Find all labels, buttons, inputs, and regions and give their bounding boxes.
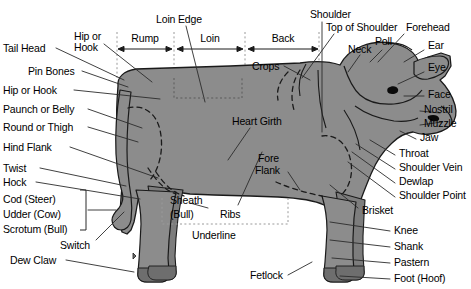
brace-shape: [80, 190, 86, 230]
label-top-of-shoulder: Top of Shoulder: [326, 22, 397, 34]
label-fore-flank-line2: Flank: [255, 165, 280, 177]
label-face: Face: [428, 89, 451, 101]
loin-arrow-head-left: [177, 46, 183, 51]
loin-arrow-head-right: [237, 46, 243, 51]
label-switch: Switch: [60, 240, 90, 252]
label-loin-edge: Loin Edge: [156, 14, 202, 26]
label-ear: Ear: [428, 40, 444, 52]
label-eye: Eye: [428, 62, 446, 74]
label-muzzle: Muzzle: [424, 118, 456, 130]
cow-far-front-hoof: [336, 266, 364, 280]
leader-twist: [40, 168, 126, 186]
label-crops: Crops: [252, 61, 279, 73]
measurement-arrows: [118, 46, 318, 51]
label-udder-cow: Udder (Cow): [3, 209, 61, 221]
label-ribs: Ribs: [220, 209, 240, 221]
label-pastern: Pastern: [394, 257, 429, 269]
label-hind-flank: Hind Flank: [3, 142, 52, 154]
label-hock: Hock: [3, 177, 26, 189]
back-arrow-head-right: [312, 46, 318, 51]
label-jaw: Jaw: [420, 132, 438, 144]
rump-arrow-head-right: [166, 46, 172, 51]
label-fetlock: Fetlock: [250, 270, 283, 282]
label-knee: Knee: [394, 225, 418, 237]
label-hip-or-hook-top-line2: Hook: [74, 42, 98, 54]
label-shoulder-vein: Shoulder Vein: [399, 162, 462, 174]
label-cod-steer: Cod (Steer): [3, 194, 56, 206]
label-foot-hoof: Foot (Hoof): [394, 273, 445, 285]
measurement-label-loin: Loin: [177, 33, 243, 45]
label-sheath-bull-line1: Sheath: [170, 195, 202, 207]
label-hip-or-hook-left: Hip or Hook: [3, 85, 57, 97]
label-throat: Throat: [399, 148, 428, 160]
label-poll: Poll: [375, 36, 392, 48]
label-shoulder-point: Shoulder Point: [399, 190, 466, 202]
label-pin-bones: Pin Bones: [28, 66, 75, 78]
cow-far-hind-hoof: [148, 266, 176, 280]
label-twist: Twist: [3, 163, 26, 175]
label-heart-girth: Heart Girth: [232, 116, 282, 128]
label-forehead: Forehead: [406, 22, 450, 34]
label-neck: Neck: [348, 44, 371, 56]
label-sheath-bull-line2: (Bull): [170, 209, 194, 221]
measurement-label-back: Back: [248, 33, 318, 45]
label-fore-flank-line1: Fore: [258, 153, 279, 165]
label-underline: Underline: [192, 230, 236, 242]
label-shoulder: Shoulder: [310, 9, 351, 21]
rump-arrow-head-left: [118, 46, 124, 51]
back-arrow-head-left: [248, 46, 254, 51]
leader-dew-claw: [66, 260, 134, 272]
label-scrotum-bull: Scrotum (Bull): [3, 224, 67, 236]
label-brisket: Brisket: [362, 205, 393, 217]
label-tail-head: Tail Head: [3, 43, 45, 55]
label-round-or-thigh: Round or Thigh: [3, 122, 73, 134]
label-nostril: Nostril: [424, 104, 453, 116]
measurement-label-rump: Rump: [118, 33, 172, 45]
leader-fetlock: [288, 262, 312, 275]
label-paunch-or-belly: Paunch or Belly: [3, 104, 74, 116]
label-dewlap: Dewlap: [399, 176, 433, 188]
label-shank: Shank: [394, 241, 423, 253]
label-dew-claw: Dew Claw: [10, 255, 56, 267]
cod-udder-scrotum-brace: [80, 190, 86, 230]
cattle-parts-diagram: Rump Loin Back Tail Head Pin Bones Hip o…: [0, 0, 471, 289]
cow-dew-claw: [133, 253, 136, 259]
